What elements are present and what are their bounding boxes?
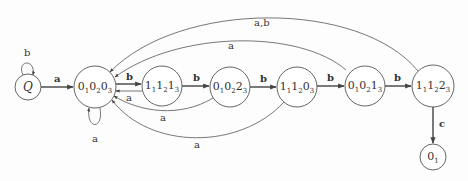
node-s0: 01 [420, 144, 446, 170]
node-s000: 010203 [74, 66, 116, 108]
edge-label-q-to-s000: a [54, 73, 61, 84]
node-s001: 010213 [345, 66, 385, 106]
node-s111: 111213 [142, 66, 182, 106]
edge-label-s112-to-s0: c [439, 118, 445, 129]
edge-label-s002-to-s000: a [160, 112, 166, 123]
edge-label-s111-to-s000: a [126, 92, 132, 103]
node-q-label: Q [23, 80, 33, 94]
edge-label-s112-to-s000: a,b [254, 17, 270, 28]
edge-s000-loop [89, 108, 101, 125]
node-q: Q [15, 74, 41, 100]
edge-label-s002-to-s110: b [260, 73, 267, 84]
node-s000-label: 010203 [78, 80, 112, 95]
edge-label-s111-to-s002: b [193, 72, 200, 83]
node-s111-label: 111213 [145, 79, 179, 94]
node-s002: 010223 [210, 67, 250, 107]
node-s112-label: 111223 [416, 79, 450, 94]
edge-label-s001-to-s000: a [228, 40, 234, 51]
edge-label-q-loop: b [24, 47, 30, 58]
node-s002-label: 010223 [213, 80, 247, 95]
node-s110: 111203 [277, 67, 317, 107]
edge-label-s001-to-s112: b [394, 72, 401, 83]
node-s112: 111223 [412, 65, 454, 107]
edge-label-s000-to-s111: b [126, 71, 133, 82]
edge-q-loop [22, 63, 34, 75]
edge-label-s110-to-s000: a [194, 139, 200, 150]
node-s001-label: 010213 [348, 79, 382, 94]
edge-label-s110-to-s001: b [327, 72, 334, 83]
state-diagram: b a a b a b a b a b a b [0, 0, 468, 181]
node-s110-label: 111203 [280, 80, 314, 95]
edge-label-s000-loop: a [92, 133, 98, 144]
